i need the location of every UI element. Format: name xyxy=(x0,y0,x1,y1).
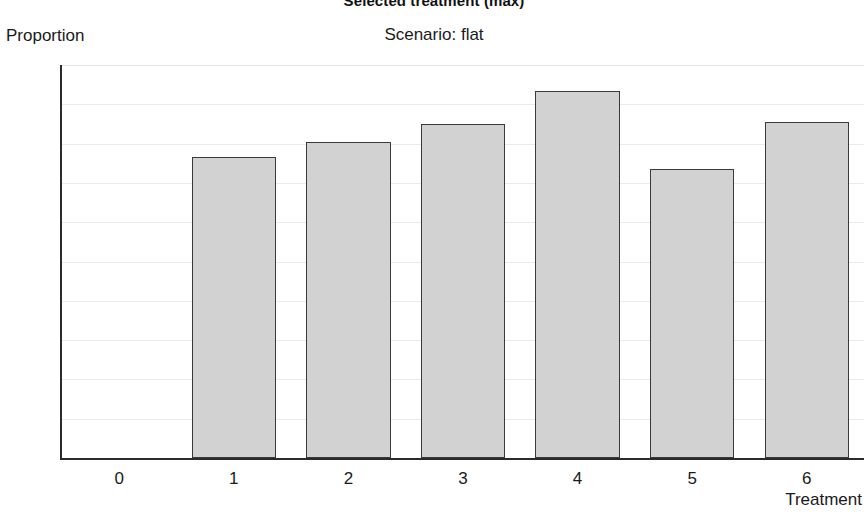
y-axis-title: Proportion xyxy=(6,26,84,46)
plot-area: 00.020.040.060.080.10.120.140.160.180.2 … xyxy=(60,65,864,460)
x-tick-label: 1 xyxy=(229,469,238,489)
chart-subtitle: Scenario: flat xyxy=(0,25,868,45)
gridline xyxy=(62,104,864,105)
x-tick-label: 2 xyxy=(344,469,353,489)
bar xyxy=(535,91,619,458)
bar-chart-figure: Selected treatment (max) Scenario: flat … xyxy=(0,0,868,518)
x-axis-title: Treatment xyxy=(785,490,862,510)
chart-title: Selected treatment (max) xyxy=(0,0,868,9)
gridline xyxy=(62,65,864,66)
bar xyxy=(421,124,505,458)
x-tick-label: 6 xyxy=(802,469,811,489)
x-tick-label: 0 xyxy=(115,469,124,489)
bar xyxy=(650,169,734,458)
bar xyxy=(306,142,390,458)
x-tick-label: 5 xyxy=(687,469,696,489)
bar xyxy=(192,157,276,458)
bar xyxy=(765,122,849,458)
x-tick-label: 3 xyxy=(458,469,467,489)
x-tick-label: 4 xyxy=(573,469,582,489)
